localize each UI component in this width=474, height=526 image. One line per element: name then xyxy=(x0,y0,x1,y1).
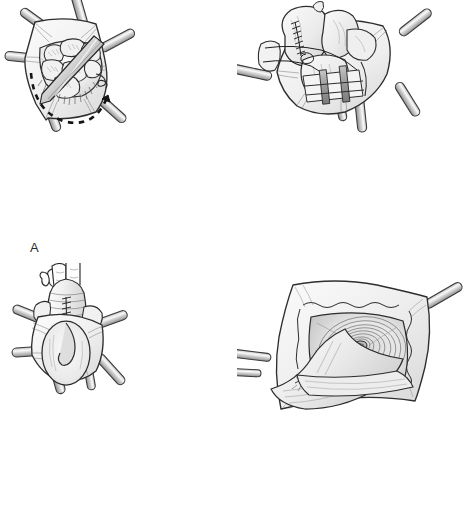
retractor-blade xyxy=(98,28,136,54)
retractor-blade xyxy=(237,348,271,362)
panel-c: C xyxy=(0,263,237,526)
retractor-blade xyxy=(423,281,464,310)
surgical-figure: A xyxy=(0,0,474,526)
panel-a: A xyxy=(0,0,237,263)
retractor-blade xyxy=(237,368,261,377)
fascial-aperture xyxy=(42,321,90,385)
panel-d: D xyxy=(237,263,474,526)
panel-b: B xyxy=(237,0,474,263)
panel-label-a: A xyxy=(30,241,39,254)
retractor-blade xyxy=(394,81,422,118)
retractor-blade xyxy=(398,7,433,37)
